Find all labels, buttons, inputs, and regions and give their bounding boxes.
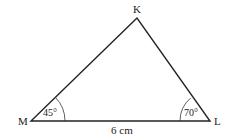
- vertex-label-K: K: [133, 4, 141, 15]
- triangle-figure: [0, 0, 233, 139]
- vertex-label-L: L: [214, 116, 221, 127]
- side-label-ML: 6 cm: [111, 125, 133, 136]
- triangle-KML: [31, 18, 210, 121]
- vertex-label-M: M: [18, 116, 28, 127]
- angle-label-L: 70°: [184, 108, 198, 118]
- angle-label-M: 45°: [43, 108, 57, 118]
